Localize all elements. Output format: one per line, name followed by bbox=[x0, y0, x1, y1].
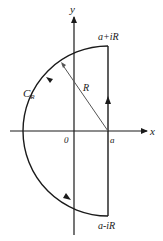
contour-diagram: y x 0 a a+iR a-iR R CR bbox=[0, 0, 163, 241]
y-axis-label: y bbox=[69, 3, 75, 15]
segment-arrow-up bbox=[105, 96, 111, 104]
origin-label: 0 bbox=[64, 135, 69, 145]
point-bottom-label: a-iR bbox=[98, 220, 115, 231]
x-axis-label: x bbox=[149, 125, 155, 137]
contour-label-subscript: R bbox=[29, 93, 35, 101]
point-a-label: a bbox=[110, 135, 115, 145]
diagram-svg: y x 0 a a+iR a-iR R CR bbox=[0, 0, 163, 241]
radius-arrowhead bbox=[61, 62, 66, 68]
arc-arrow-upper bbox=[46, 77, 53, 83]
point-top-label: a+iR bbox=[98, 31, 119, 42]
radius-line bbox=[62, 64, 108, 131]
radius-label: R bbox=[82, 82, 89, 93]
arc-arrow-lower bbox=[63, 193, 71, 200]
